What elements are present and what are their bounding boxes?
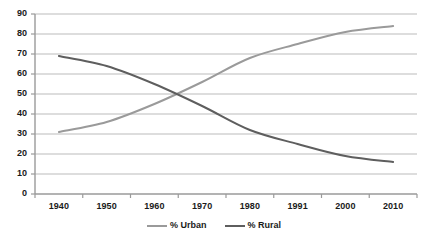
- series-line-rural: [59, 56, 393, 162]
- legend-swatch-rural: [225, 225, 245, 227]
- y-axis-tick-label: 30: [0, 129, 27, 138]
- series-line-urban: [59, 26, 393, 132]
- y-axis-tick-label: 90: [0, 9, 27, 18]
- x-axis-tick-label: 2010: [373, 202, 413, 211]
- y-axis-tick-label: 40: [0, 109, 27, 118]
- line-chart: 0102030405060708090 19401950196019701980…: [0, 0, 428, 240]
- x-axis-tick-label: 2000: [325, 202, 365, 211]
- x-axis-tick-label: 1940: [39, 202, 79, 211]
- legend-label-urban: % Urban: [170, 221, 207, 230]
- legend-item-rural: % Rural: [225, 221, 282, 230]
- y-axis-tick-label: 80: [0, 29, 27, 38]
- x-axis-tick-label: 1960: [134, 202, 174, 211]
- y-axis-tick-label: 50: [0, 89, 27, 98]
- y-axis-tick-label: 20: [0, 149, 27, 158]
- gridlines-group: [35, 14, 417, 174]
- y-axis-tick-label: 10: [0, 169, 27, 178]
- x-axis-tick-label: 1980: [230, 202, 270, 211]
- y-axis-tick-label: 70: [0, 49, 27, 58]
- legend-label-rural: % Rural: [248, 221, 282, 230]
- legend-item-urban: % Urban: [147, 221, 207, 230]
- x-axis-tick-label: 1950: [87, 202, 127, 211]
- y-axis-tick-label: 0: [0, 189, 27, 198]
- x-axis-tick-label: 1970: [182, 202, 222, 211]
- y-axis-tick-label: 60: [0, 69, 27, 78]
- legend-swatch-urban: [147, 225, 167, 227]
- chart-legend: % Urban % Rural: [0, 221, 428, 230]
- x-axis-tick-label: 1991: [278, 202, 318, 211]
